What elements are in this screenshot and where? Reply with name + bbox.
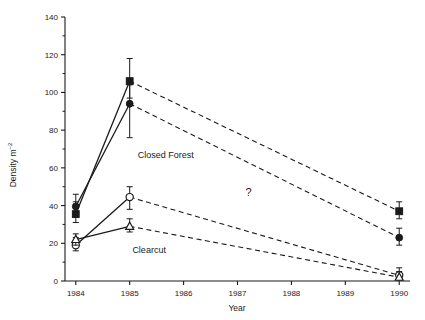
marker-open-circle [126, 193, 133, 200]
marker-filled-circle [72, 203, 79, 210]
series-line-segment [76, 226, 130, 239]
marker-filled-square [126, 78, 133, 85]
marker-filled-square [396, 208, 403, 215]
chart-svg: 020406080100120140 198419851986198719881… [0, 0, 425, 320]
x-axis-label: Year [228, 303, 245, 313]
x-tick-label: 1987 [229, 289, 247, 298]
series-line-segment [130, 104, 400, 238]
x-tick-label: 1990 [390, 289, 408, 298]
x-tick-label: 1989 [336, 289, 354, 298]
y-tick-label: 20 [49, 239, 58, 248]
series-line-segment [130, 226, 400, 277]
series-line-segment [76, 104, 130, 207]
question-mark-annotation: ? [246, 186, 252, 198]
x-tick-label: 1985 [121, 289, 139, 298]
series-line-segment [130, 197, 400, 275]
y-label-superscript: −2 [7, 142, 13, 150]
marker-filled-circle [126, 100, 133, 107]
series-line-segment [76, 81, 130, 214]
y-axis-label: Density m−2 [7, 142, 18, 187]
x-tick-group: 1984198519861987198819891990 [67, 281, 409, 298]
series-label-annotation: Closed Forest [138, 150, 195, 160]
x-tick-label: 1986 [175, 289, 193, 298]
axes-group [65, 17, 410, 281]
figure-panel: 020406080100120140 198419851986198719881… [0, 0, 425, 320]
series-line-segment [130, 81, 400, 211]
y-tick-group: 020406080100120140 [45, 13, 65, 286]
y-tick-label: 60 [49, 164, 58, 173]
y-tick-label: 140 [45, 13, 59, 22]
y-tick-label: 40 [49, 202, 58, 211]
marker-filled-circle [396, 234, 403, 241]
series-label-annotation: Clearcut [132, 245, 166, 255]
y-tick-label: 120 [45, 51, 59, 60]
series-0 [72, 58, 402, 222]
data-series-group [72, 58, 403, 280]
series-2 [72, 187, 403, 279]
y-tick-label: 100 [45, 88, 59, 97]
y-tick-label: 80 [49, 126, 58, 135]
y-tick-label: 0 [54, 277, 59, 286]
x-tick-label: 1988 [283, 289, 301, 298]
marker-open-triangle [126, 222, 134, 229]
series-1 [72, 85, 402, 245]
x-tick-label: 1984 [67, 289, 85, 298]
